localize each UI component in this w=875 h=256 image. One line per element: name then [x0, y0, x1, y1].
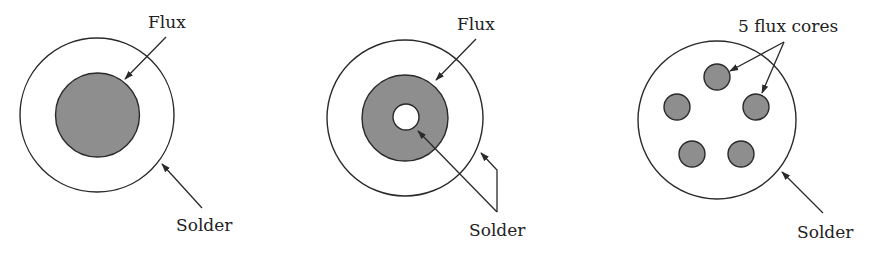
solder-cross-sections-diagram: Flux Solder Flux Solder 5 flux cores Sol… [0, 0, 875, 256]
flux-cores-label: 5 flux cores [738, 16, 838, 36]
solder-label: Solder [469, 220, 526, 240]
flux-core-3 [743, 94, 769, 120]
solder-center [393, 104, 419, 130]
flux-core [56, 73, 140, 157]
flux-core-2 [664, 94, 690, 120]
flux-label: Flux [148, 12, 186, 32]
panel-annular-core: Flux Solder [327, 14, 526, 240]
flux-core-4 [679, 141, 705, 167]
panel-five-core: 5 flux cores Solder [638, 16, 854, 242]
flux-label: Flux [457, 14, 495, 34]
solder-arrow [782, 172, 823, 213]
flux-core-1 [704, 64, 730, 90]
solder-label: Solder [176, 215, 233, 235]
solder-label: Solder [797, 222, 854, 242]
panel-single-core: Flux Solder [20, 12, 233, 235]
solder-arrow [162, 164, 202, 208]
flux-core-5 [728, 141, 754, 167]
